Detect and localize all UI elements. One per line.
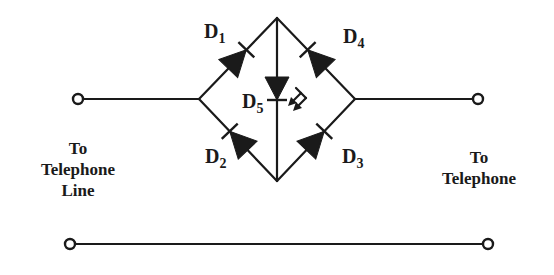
terminal-phone-top xyxy=(473,94,483,104)
svg-text:To: To xyxy=(470,148,488,167)
label-d5: D5 xyxy=(242,90,263,116)
label-d1: D1 xyxy=(204,20,225,46)
led-d5-triangle xyxy=(265,77,289,100)
label-to-telephone-line: To Telephone Line xyxy=(41,139,115,200)
label-d3: D3 xyxy=(342,145,363,171)
label-d4: D4 xyxy=(343,25,364,51)
svg-text:Line: Line xyxy=(61,181,95,200)
light-emission-icon xyxy=(288,88,306,111)
label-to-telephone: To Telephone xyxy=(442,148,516,188)
terminal-line-top xyxy=(73,94,83,104)
svg-text:To: To xyxy=(69,139,87,158)
terminal-line-bottom xyxy=(65,239,75,249)
svg-text:Telephone: Telephone xyxy=(41,160,115,179)
svg-text:Telephone: Telephone xyxy=(442,169,516,188)
label-d2: D2 xyxy=(205,145,226,171)
terminal-phone-bottom xyxy=(483,239,493,249)
circuit-diagram: D1 D4 D5 D2 D3 To Telephone Line To Tele… xyxy=(0,0,554,275)
led-d5 xyxy=(265,77,289,100)
